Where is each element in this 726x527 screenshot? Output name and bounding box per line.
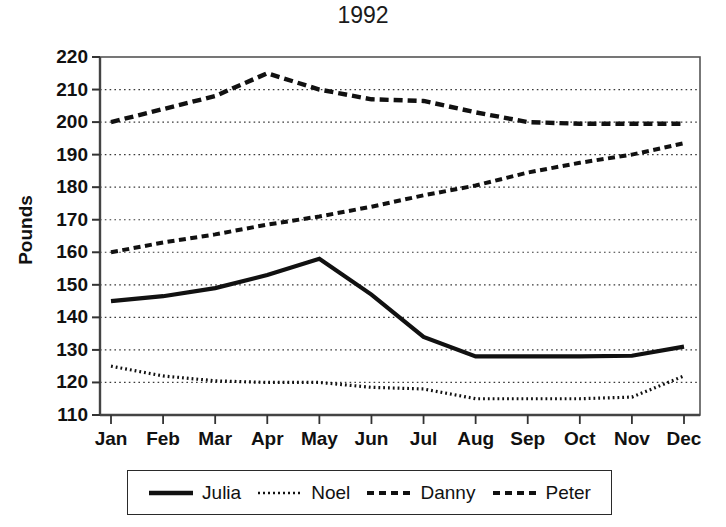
legend-label-julia: Julia <box>202 482 241 504</box>
series-line-peter <box>111 73 684 123</box>
legend-item-julia: Julia <box>148 482 241 504</box>
legend-item-danny: Danny <box>366 482 475 504</box>
y-tick-label: 220 <box>56 46 88 67</box>
y-tick-labels: 220210200190180170160150140130120110 <box>56 46 88 425</box>
series-line-julia <box>111 259 684 357</box>
legend-swatch-danny <box>366 486 412 500</box>
x-tick-label: Aug <box>457 428 494 449</box>
legend-label-danny: Danny <box>420 482 475 504</box>
x-tick-label: Jul <box>410 428 437 449</box>
x-tick-label: Nov <box>614 428 650 449</box>
y-tick-label: 130 <box>56 339 88 360</box>
legend-item-noel: Noel <box>257 482 350 504</box>
legend-swatch-julia <box>148 486 194 500</box>
y-tick-label: 190 <box>56 144 88 165</box>
x-tick-label: Jun <box>355 428 389 449</box>
legend-label-noel: Noel <box>311 482 350 504</box>
chart-legend: Julia Noel Danny Peter <box>127 470 612 515</box>
y-tick-label: 160 <box>56 241 88 262</box>
x-tick-label: Mar <box>198 428 232 449</box>
y-tick-label: 120 <box>56 371 88 392</box>
y-tick-label: 150 <box>56 274 88 295</box>
x-tick-label: Sep <box>510 428 545 449</box>
y-tick-label: 200 <box>56 111 88 132</box>
legend-swatch-peter <box>492 486 538 500</box>
y-tick-label: 110 <box>57 404 88 425</box>
x-tick-labels: JanFebMarAprMayJunJulAugSepOctNovDec <box>95 428 702 449</box>
plot-area: 220210200190180170160150140130120110 Jan… <box>0 0 726 527</box>
plot-border <box>100 57 700 415</box>
y-tick-label: 210 <box>56 79 88 100</box>
series-line-danny <box>111 143 684 252</box>
legend-swatch-noel <box>257 486 303 500</box>
x-tick-label: Jan <box>95 428 128 449</box>
plot-frame <box>100 57 700 415</box>
y-tick-label: 180 <box>56 176 88 197</box>
x-tick-label: May <box>301 428 338 449</box>
chart-container: 1992 Pounds 2202102001901801701601501401… <box>0 0 726 527</box>
x-tick-label: Dec <box>667 428 702 449</box>
legend-item-peter: Peter <box>492 482 591 504</box>
x-tick-label: Oct <box>564 428 596 449</box>
x-tick-label: Feb <box>146 428 180 449</box>
y-tick-label: 170 <box>56 209 88 230</box>
gridlines <box>100 90 700 383</box>
x-tick-label: Apr <box>251 428 284 449</box>
y-tick-label: 140 <box>56 306 88 327</box>
legend-label-peter: Peter <box>546 482 591 504</box>
